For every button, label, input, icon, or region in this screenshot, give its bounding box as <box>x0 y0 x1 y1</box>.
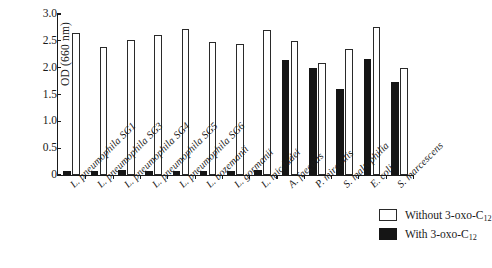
y-axis-tick-label: 3.0 <box>31 8 57 20</box>
bar-with-3oxo <box>63 171 71 175</box>
bar-group <box>58 14 85 175</box>
y-axis-tick-label: 2.5 <box>31 35 57 47</box>
legend-label: With 3-oxo-C12 <box>405 228 477 240</box>
legend-row: Without 3-oxo-C12 <box>379 205 487 224</box>
bar-group <box>386 14 413 175</box>
y-axis-tick-label: 0.5 <box>31 142 57 154</box>
y-axis-tick-label: 1.5 <box>31 89 57 101</box>
legend-swatch <box>379 228 397 240</box>
legend-swatch <box>379 209 397 221</box>
legend-label: Without 3-oxo-C12 <box>405 209 492 221</box>
chart-legend: Without 3-oxo-C12With 3-oxo-C12 <box>379 205 487 243</box>
bar-without-3oxo <box>400 68 408 175</box>
y-axis-tick-label: 1.0 <box>31 116 57 128</box>
y-axis-tick-label: 0 <box>31 169 57 181</box>
bar-without-3oxo <box>72 33 80 175</box>
y-axis-tick-label: 2.0 <box>31 62 57 74</box>
legend-row: With 3-oxo-C12 <box>379 224 487 243</box>
bar-with-3oxo <box>391 82 399 175</box>
